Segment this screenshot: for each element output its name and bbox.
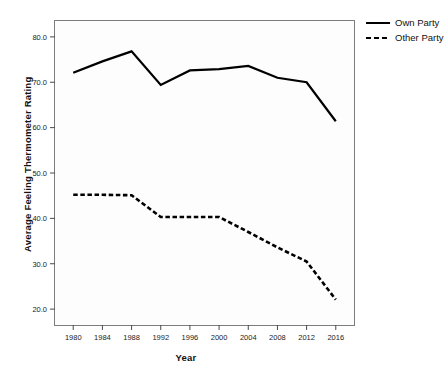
y-tick-label: 50.0 bbox=[32, 169, 47, 178]
x-tick-label: 2012 bbox=[298, 333, 315, 342]
legend-key-solid-line-icon bbox=[366, 18, 390, 28]
legend-key-dashed-line-icon bbox=[366, 33, 390, 43]
x-tick-label: 1984 bbox=[94, 333, 111, 342]
x-tick-label: 2008 bbox=[269, 333, 286, 342]
y-axis-title: Average Feeling Thermometer Rating bbox=[22, 77, 33, 252]
legend-label-other-party: Other Party bbox=[395, 32, 444, 43]
y-tick-label: 80.0 bbox=[32, 33, 47, 42]
x-tick-label: 1996 bbox=[182, 333, 199, 342]
legend-item-own-party: Own Party bbox=[366, 16, 446, 29]
y-tick-label: 70.0 bbox=[32, 78, 47, 87]
x-tick-label: 2000 bbox=[211, 333, 228, 342]
x-tick-label: 2016 bbox=[327, 333, 344, 342]
x-axis-title: Year bbox=[0, 352, 372, 363]
x-tick-label: 1988 bbox=[123, 333, 140, 342]
x-axis-ticks: 1980198419881992199620002004200820122016 bbox=[65, 325, 344, 342]
plot-frame bbox=[55, 21, 355, 326]
y-axis-ticks: 20.030.040.050.060.070.080.0 bbox=[32, 33, 55, 314]
y-tick-label: 20.0 bbox=[32, 305, 47, 314]
chart-legend: Own Party Other Party bbox=[366, 16, 446, 46]
x-tick-label: 1980 bbox=[65, 333, 82, 342]
legend-item-other-party: Other Party bbox=[366, 31, 446, 44]
y-tick-label: 40.0 bbox=[32, 214, 47, 223]
chart-figure: 20.030.040.050.060.070.080.0 19801984198… bbox=[0, 0, 447, 372]
y-tick-label: 60.0 bbox=[32, 123, 47, 132]
x-tick-label: 2004 bbox=[240, 333, 257, 342]
legend-label-own-party: Own Party bbox=[395, 17, 439, 28]
y-tick-label: 30.0 bbox=[32, 260, 47, 269]
x-tick-label: 1992 bbox=[152, 333, 169, 342]
chart-plot-area: 20.030.040.050.060.070.080.0 19801984198… bbox=[0, 0, 447, 372]
